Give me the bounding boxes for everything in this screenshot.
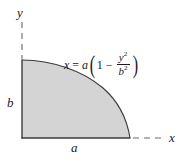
equation-lhs: x [64, 59, 69, 71]
fraction-numerator: y2 [117, 52, 129, 64]
numerator-exponent: 2 [124, 50, 128, 58]
y-axis-label: y [17, 6, 23, 19]
equation-equals: = [72, 59, 79, 71]
equation-one: 1 [97, 59, 103, 71]
equation-coefficient: a [82, 59, 88, 71]
equation-minus: − [106, 59, 113, 71]
width-dimension-label: a [71, 141, 78, 154]
x-axis-label: x [169, 131, 175, 144]
fraction-denominator: b2 [117, 65, 130, 77]
parabolic-area-figure: y x b a x = a ( 1 − y2 b2 ) [0, 0, 182, 162]
denominator-exponent: 2 [124, 64, 128, 72]
equation-fraction: y2 b2 [117, 52, 130, 77]
height-dimension-label: b [7, 96, 14, 109]
figure-canvas [0, 0, 182, 162]
equation-close-paren: ) [132, 54, 137, 75]
equation-open-paren: ( [90, 54, 95, 75]
curve-equation: x = a ( 1 − y2 b2 ) [64, 52, 139, 77]
